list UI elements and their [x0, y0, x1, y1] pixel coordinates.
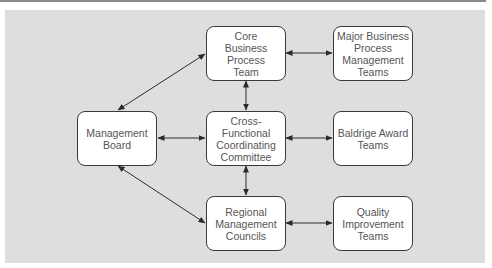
- node-management-board: Management Board: [77, 111, 157, 166]
- node-quality-improvement-teams: Quality Improvement Teams: [333, 196, 413, 251]
- node-baldrige-award-teams: Baldrige Award Teams: [333, 111, 413, 166]
- node-core-business-process-team: Core Business Process Team: [206, 26, 286, 81]
- node-cross-functional-coordinating-committee: Cross- Functional Coordinating Committee: [206, 111, 286, 166]
- edge-board-core: [118, 54, 205, 110]
- node-regional-management-councils: Regional Management Councils: [206, 196, 286, 251]
- node-major-business-process-management-teams: Major Business Process Management Teams: [333, 26, 413, 81]
- edge-board-regional: [118, 166, 205, 223]
